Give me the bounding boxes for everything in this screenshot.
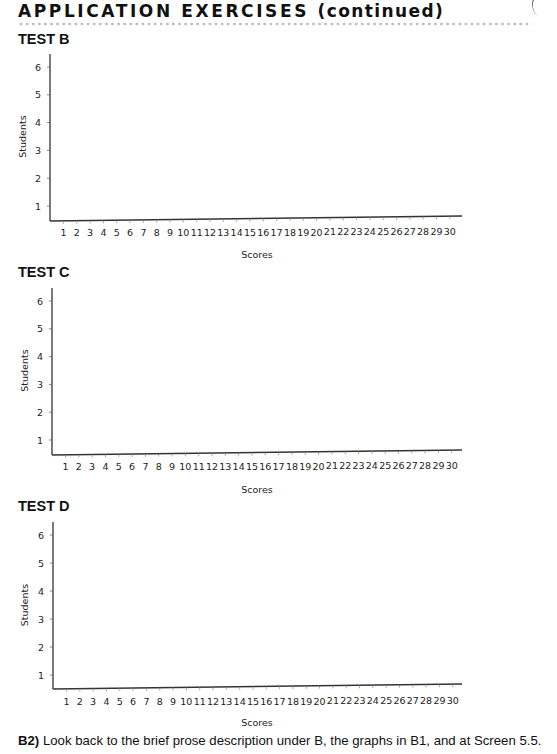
exercise-text: Look back to the brief prose description… (39, 733, 541, 748)
x-tick-label: 25 (380, 695, 392, 706)
y-tick-label: 4 (38, 586, 44, 597)
x-tick-label: 1 (63, 696, 69, 707)
x-tick-label: 26 (393, 695, 405, 706)
y-tick-label: 1 (38, 670, 44, 681)
x-tick-label: 19 (300, 696, 312, 707)
y-tick-label: 6 (38, 530, 44, 541)
chart-d-plot: 1234561234567891011121314151617181920212… (0, 0, 557, 730)
x-tick-label: 30 (447, 695, 459, 706)
x-tick-label: 20 (314, 696, 326, 707)
x-tick-label: 9 (170, 696, 176, 707)
x-tick-label: 22 (340, 695, 352, 706)
x-tick-label: 28 (420, 695, 432, 706)
x-tick-label: 16 (260, 696, 272, 707)
x-tick-label: 17 (274, 696, 286, 707)
exercise-label: B2) (18, 733, 39, 748)
y-tick-label: 5 (38, 558, 44, 569)
x-tick-label: 29 (433, 695, 445, 706)
y-tick-label: 3 (38, 614, 44, 625)
x-tick-label: 15 (247, 696, 259, 707)
x-tick-label: 8 (157, 696, 163, 707)
x-tick-label: 6 (130, 696, 136, 707)
exercise-b2-instruction: B2) Look back to the brief prose descrip… (18, 733, 541, 748)
x-tick-label: 11 (194, 696, 206, 707)
x-tick-label: 2 (77, 696, 83, 707)
x-tick-label: 21 (327, 695, 339, 706)
x-axis-line (53, 684, 462, 689)
y-tick-label: 2 (38, 642, 44, 653)
x-axis-title: Scores (241, 717, 273, 728)
x-tick-label: 3 (90, 696, 96, 707)
x-tick-label: 18 (287, 696, 299, 707)
x-tick-label: 4 (103, 696, 109, 707)
x-tick-label: 27 (407, 695, 419, 706)
x-tick-label: 10 (180, 696, 192, 707)
y-axis-title: Students (19, 584, 30, 626)
x-tick-label: 7 (143, 696, 149, 707)
x-tick-label: 13 (220, 696, 232, 707)
x-tick-label: 14 (234, 696, 246, 707)
x-tick-label: 24 (367, 695, 379, 706)
x-tick-label: 12 (207, 696, 219, 707)
x-tick-label: 5 (117, 696, 123, 707)
x-tick-label: 23 (353, 695, 365, 706)
